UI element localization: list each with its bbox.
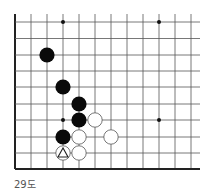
black-stone-icon xyxy=(71,112,86,127)
go-board xyxy=(0,0,213,175)
star-point-icon xyxy=(61,20,65,24)
star-point-icon xyxy=(157,20,161,24)
star-point-icon xyxy=(157,118,161,122)
star-point-icon xyxy=(61,118,65,122)
white-stone-icon xyxy=(104,130,118,144)
black-stone-icon xyxy=(39,47,54,62)
black-stone-icon xyxy=(71,96,86,111)
white-stone-icon xyxy=(72,146,86,160)
white-stone-icon xyxy=(72,130,86,144)
grid-lines xyxy=(15,14,200,169)
black-stone-icon xyxy=(55,129,70,144)
black-stone-icon xyxy=(55,79,70,94)
white-stone-icon xyxy=(88,113,102,127)
diagram-caption: 29도 xyxy=(14,179,36,191)
